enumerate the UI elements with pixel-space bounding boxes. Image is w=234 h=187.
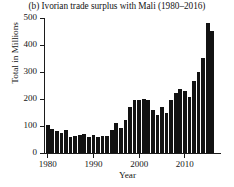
y-axis-tick-label: 0 (0, 148, 37, 157)
y-axis-tick (40, 153, 45, 154)
y-axis-tick (40, 45, 45, 46)
x-axis-tick-label: 1990 (75, 159, 111, 169)
bar (137, 100, 141, 153)
bar (151, 110, 155, 153)
x-axis-tick (93, 154, 94, 158)
y-axis-tick (40, 18, 45, 19)
bar (114, 123, 118, 153)
bar (197, 72, 201, 153)
y-axis-tick (40, 99, 45, 100)
bar (188, 97, 192, 153)
bar (110, 130, 114, 153)
bar (178, 89, 182, 153)
chart-figure: (b) Ivorian trade surplus with Mali (198… (0, 0, 234, 187)
bar (46, 125, 50, 153)
bar (60, 133, 64, 153)
bar (78, 135, 82, 153)
x-axis-tick (184, 154, 185, 158)
bar (201, 58, 205, 153)
x-axis-tick (47, 154, 48, 158)
x-axis-label: Year (40, 170, 215, 180)
bar (73, 136, 77, 153)
bar (55, 131, 59, 153)
bar (87, 137, 91, 153)
y-axis-tick-label: 300 (0, 67, 37, 76)
y-axis-tick-label: 200 (0, 94, 37, 103)
bar (174, 93, 178, 153)
bar (183, 91, 187, 153)
x-axis-tick-label: 2000 (121, 159, 157, 169)
y-axis-tick-label: 500 (0, 13, 37, 22)
bar (124, 120, 128, 153)
x-axis-tick (139, 154, 140, 158)
x-axis-line (44, 153, 221, 154)
bar (82, 134, 86, 153)
bar (69, 137, 73, 153)
bar (101, 136, 105, 153)
bar (64, 130, 68, 153)
bar (105, 136, 109, 153)
bar (206, 23, 210, 153)
bar (192, 81, 196, 153)
bar (50, 129, 54, 153)
bar (156, 115, 160, 153)
bar (92, 135, 96, 153)
bar (146, 100, 150, 153)
y-axis-tick (40, 126, 45, 127)
y-axis-tick-label: 400 (0, 40, 37, 49)
plot-area (45, 18, 215, 153)
bar (142, 99, 146, 153)
x-axis-tick-label: 1980 (30, 159, 66, 169)
bar (165, 113, 169, 154)
bar (133, 100, 137, 153)
y-axis-tick-label: 100 (0, 121, 37, 130)
y-axis-tick (40, 72, 45, 73)
bar (169, 100, 173, 153)
bar (119, 128, 123, 153)
bar (128, 107, 132, 153)
bar (210, 31, 214, 153)
bar (96, 137, 100, 153)
bar (160, 107, 164, 153)
chart-title: (b) Ivorian trade surplus with Mali (198… (0, 1, 234, 12)
x-axis-tick-label: 2010 (167, 159, 203, 169)
